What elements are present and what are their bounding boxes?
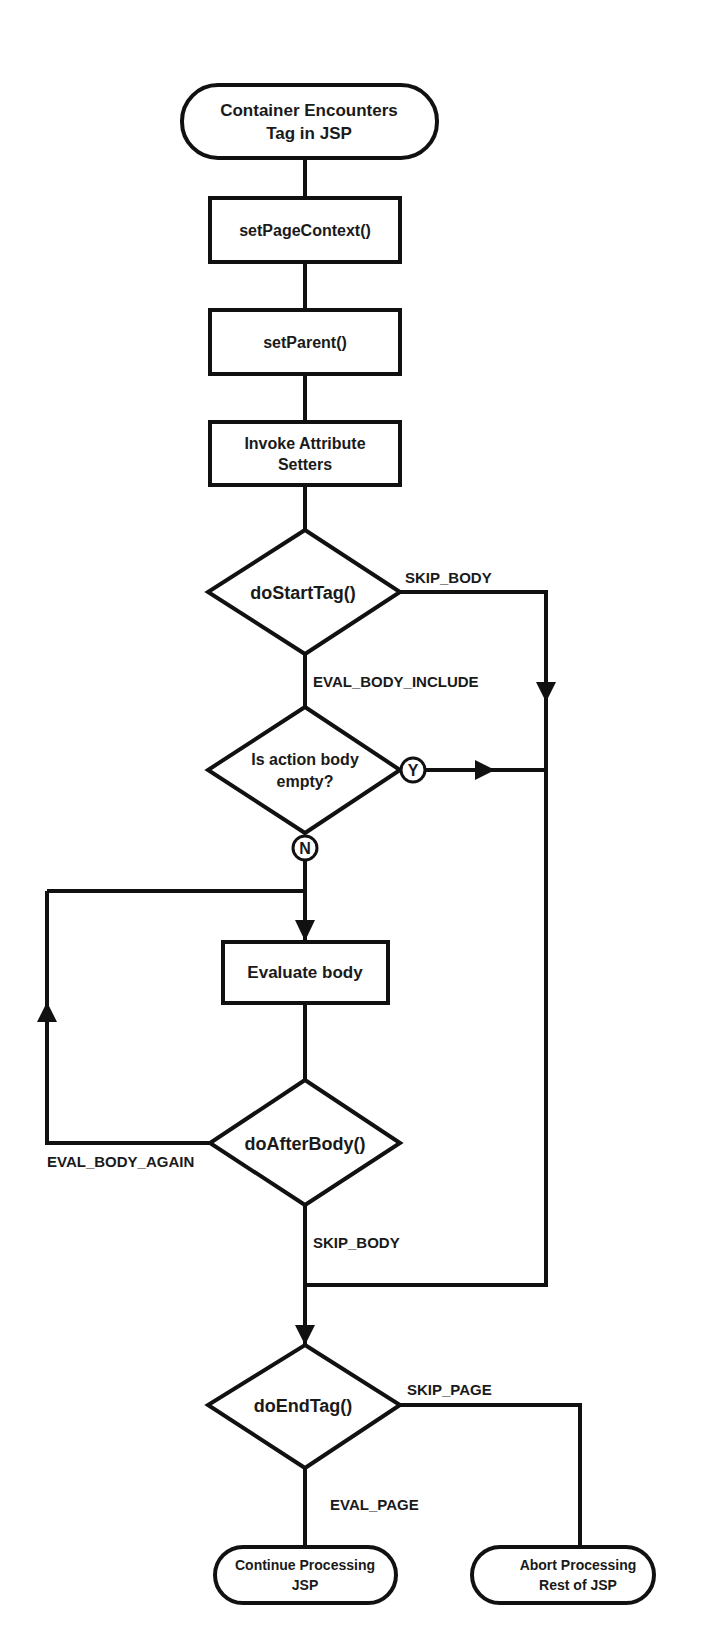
flowchart-canvas: Container Encounters Tag in JSP setPageC…	[0, 0, 713, 1643]
no-label: N	[299, 840, 311, 857]
arrow-right-icon	[475, 760, 495, 780]
node-label: JSP	[292, 1577, 318, 1593]
node-label: Continue Processing	[235, 1557, 375, 1573]
node-label: empty?	[277, 773, 334, 790]
decision-shape	[208, 707, 400, 833]
node-continue: Continue Processing JSP	[215, 1547, 396, 1603]
node-evaluate-body: Evaluate body	[223, 942, 388, 1003]
terminal-shape	[215, 1547, 396, 1603]
node-label: Setters	[278, 456, 332, 473]
label-skip-body-after: SKIP_BODY	[313, 1234, 400, 1251]
terminal-shape	[182, 85, 437, 158]
node-label: Evaluate body	[247, 963, 363, 982]
label-eval-body-include: EVAL_BODY_INCLUDE	[313, 673, 479, 690]
node-abort: Abort Processing Rest of JSP	[472, 1547, 654, 1603]
edge-doendtag-skip-page	[400, 1405, 580, 1547]
edge-dostarttag-skip-body	[400, 592, 546, 915]
node-doafterbody: doAfterBody()	[210, 1080, 400, 1205]
arrow-up-icon	[37, 1002, 57, 1022]
yes-connector: Y	[401, 758, 425, 782]
node-label: Rest of JSP	[539, 1577, 617, 1593]
arrow-down-icon	[536, 682, 556, 702]
node-label: setPageContext()	[239, 222, 371, 239]
node-label: doStartTag()	[250, 583, 356, 603]
edge-doafterbody-eval-body-again	[47, 891, 210, 1143]
node-setparent: setParent()	[210, 310, 400, 374]
arrow-down-icon	[295, 1325, 315, 1345]
arrow-down-icon	[295, 920, 315, 941]
node-label: setParent()	[263, 334, 347, 351]
label-skip-body-start: SKIP_BODY	[405, 569, 492, 586]
label-eval-body-again: EVAL_BODY_AGAIN	[47, 1153, 194, 1170]
node-label: Abort Processing	[520, 1557, 637, 1573]
no-connector: N	[293, 836, 317, 860]
node-label: doAfterBody()	[245, 1134, 366, 1154]
yes-label: Y	[408, 762, 419, 779]
node-label: Container Encounters	[220, 101, 398, 120]
node-body-empty: Is action body empty?	[208, 707, 400, 833]
node-start: Container Encounters Tag in JSP	[182, 85, 437, 158]
node-label: Is action body	[251, 751, 359, 768]
process-shape	[210, 422, 400, 485]
node-label: doEndTag()	[254, 1396, 353, 1416]
node-invoke-setters: Invoke Attribute Setters	[210, 422, 400, 485]
label-skip-page: SKIP_PAGE	[407, 1381, 492, 1398]
label-eval-page: EVAL_PAGE	[330, 1496, 419, 1513]
node-doendtag: doEndTag()	[208, 1345, 400, 1468]
node-dostarttag: doStartTag()	[208, 530, 400, 654]
terminal-shape	[472, 1547, 654, 1603]
node-label: Tag in JSP	[266, 124, 352, 143]
node-setpagecontext: setPageContext()	[210, 198, 400, 262]
node-label: Invoke Attribute	[244, 435, 365, 452]
